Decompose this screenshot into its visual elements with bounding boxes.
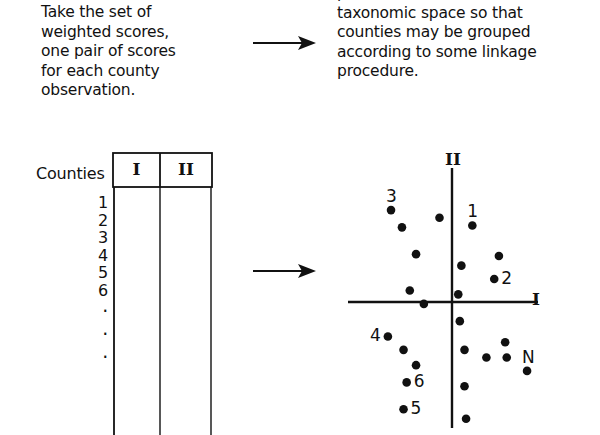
row-label-ellipsis: · bbox=[62, 323, 108, 346]
scatter-point bbox=[399, 346, 408, 355]
arrow-right-icon-2 bbox=[252, 260, 318, 282]
scatter-point bbox=[454, 290, 463, 299]
scatter-point bbox=[435, 213, 444, 222]
scatter-point-label: 4 bbox=[370, 327, 381, 344]
scatter-point bbox=[462, 414, 471, 423]
scatter-point-label: N bbox=[522, 349, 535, 366]
scatter-plot: II I 312465N bbox=[330, 148, 600, 435]
scatter-point bbox=[387, 206, 396, 215]
row-label: 1 bbox=[62, 194, 108, 212]
scatter-point bbox=[412, 361, 421, 370]
row-label-ellipsis: · bbox=[62, 346, 108, 369]
caption-right: point in a two-dimensional taxonomic spa… bbox=[337, 0, 599, 82]
counties-table: Counties I II 1 2 3 4 5 6 · · · N bbox=[36, 152, 222, 435]
scatter-point bbox=[398, 223, 407, 232]
scatter-point bbox=[420, 300, 429, 309]
row-label: 5 bbox=[62, 264, 108, 282]
scatter-point bbox=[468, 221, 477, 230]
row-label: 2 bbox=[62, 212, 108, 230]
row-label-list: 1 2 3 4 5 6 · · · bbox=[62, 194, 108, 369]
scatter-point bbox=[460, 382, 469, 391]
scatter-point bbox=[456, 317, 465, 326]
scatter-point-label: 6 bbox=[414, 373, 425, 390]
scatter-point bbox=[399, 405, 408, 414]
scatter-point bbox=[457, 261, 466, 270]
figure-canvas: Take the set of weighted scores, one pai… bbox=[0, 0, 600, 435]
row-label: 6 bbox=[62, 282, 108, 300]
scatter-point bbox=[384, 332, 393, 341]
scatter-point bbox=[405, 286, 414, 295]
scatter-point bbox=[502, 353, 511, 362]
scatter-point bbox=[460, 346, 469, 355]
scatter-axes-and-points bbox=[330, 148, 600, 435]
column-header-i: I bbox=[113, 161, 160, 178]
row-label: 4 bbox=[62, 247, 108, 265]
scatter-point bbox=[412, 250, 421, 259]
scatter-point bbox=[482, 353, 491, 362]
caption-left: Take the set of weighted scores, one pai… bbox=[41, 3, 256, 101]
axis-label-ii: II bbox=[445, 151, 461, 168]
axis-label-i: I bbox=[532, 291, 540, 308]
arrow-right-icon bbox=[252, 32, 318, 54]
scatter-point bbox=[501, 338, 510, 347]
scatter-point bbox=[523, 367, 532, 376]
row-label-ellipsis: · bbox=[62, 300, 108, 323]
scatter-point bbox=[495, 252, 504, 261]
scatter-point-label: 1 bbox=[467, 203, 478, 220]
scatter-point-label: 5 bbox=[411, 400, 422, 417]
row-label: 3 bbox=[62, 229, 108, 247]
scatter-point bbox=[490, 275, 499, 284]
scatter-point-label: 2 bbox=[501, 270, 512, 287]
scatter-point bbox=[402, 378, 411, 387]
scatter-point-label: 3 bbox=[386, 188, 397, 205]
column-header-ii: II bbox=[160, 161, 212, 178]
